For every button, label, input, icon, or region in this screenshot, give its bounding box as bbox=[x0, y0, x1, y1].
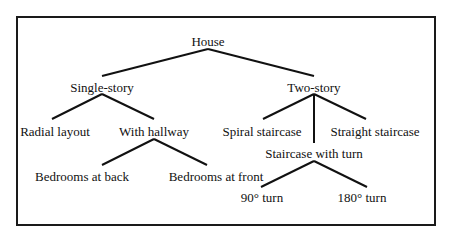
edge-turn-t90 bbox=[261, 161, 314, 187]
edge-house-single bbox=[102, 49, 208, 76]
node-t180: 180° turn bbox=[338, 191, 387, 205]
node-spiral: Spiral staircase bbox=[222, 125, 301, 139]
node-back: Bedrooms at back bbox=[35, 170, 129, 184]
node-radial: Radial layout bbox=[20, 125, 90, 139]
edge-hallway-back bbox=[102, 139, 154, 165]
edge-two-spiral bbox=[263, 94, 314, 119]
edge-house-two bbox=[208, 49, 314, 76]
node-turn: Staircase with turn bbox=[265, 147, 362, 161]
edge-hallway-front bbox=[154, 139, 207, 165]
edge-two-straight bbox=[314, 94, 366, 119]
node-single: Single-story bbox=[70, 81, 134, 95]
node-hallway: With hallway bbox=[119, 125, 189, 139]
node-straight: Straight staircase bbox=[330, 125, 419, 139]
node-house: House bbox=[191, 35, 224, 49]
edge-single-hallway bbox=[102, 94, 154, 119]
house-design-tree-diagram: HouseSingle-storyTwo-storyRadial layoutW… bbox=[0, 0, 452, 237]
edge-turn-t180 bbox=[314, 161, 367, 187]
node-front: Bedrooms at front bbox=[169, 170, 264, 184]
node-t90: 90° turn bbox=[241, 191, 283, 205]
node-two: Two-story bbox=[287, 81, 340, 95]
edge-single-radial bbox=[52, 94, 102, 119]
